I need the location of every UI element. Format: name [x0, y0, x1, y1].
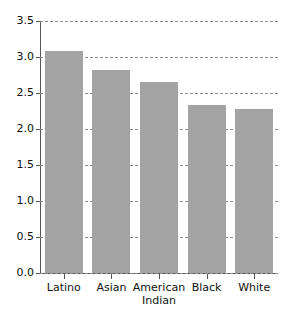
y-axis-tick: [36, 273, 40, 274]
y-axis-tick-label: 2.5: [0, 86, 34, 99]
bar: [92, 70, 130, 273]
bar-chart: 0.00.51.01.52.02.53.03.5 LatinoAsianAmer…: [0, 0, 286, 314]
y-axis-tick-label: 0.5: [0, 230, 34, 243]
y-axis-tick: [36, 129, 40, 130]
y-axis-tick-label: 0.0: [0, 266, 34, 279]
bar: [45, 51, 83, 273]
y-axis-tick-label: 2.0: [0, 122, 34, 135]
y-axis-tick: [36, 93, 40, 94]
x-axis-tick: [111, 274, 112, 279]
x-axis-tick: [64, 274, 65, 279]
bar: [188, 105, 226, 273]
y-axis-spine: [40, 21, 41, 273]
y-axis-tick-label: 1.5: [0, 158, 34, 171]
y-axis-tick-label: 3.5: [0, 14, 34, 27]
x-axis-tick: [159, 274, 160, 279]
y-axis-tick-label: 3.0: [0, 50, 34, 63]
x-axis-tick: [254, 274, 255, 279]
y-axis-tick: [36, 57, 40, 58]
bar: [235, 109, 273, 273]
y-axis-tick: [36, 165, 40, 166]
y-axis-tick: [36, 201, 40, 202]
y-axis-tick: [36, 21, 40, 22]
gridline: [40, 21, 278, 22]
y-axis-tick-label: 1.0: [0, 194, 34, 207]
x-axis-tick-label: White: [226, 281, 282, 294]
y-axis-tick: [36, 237, 40, 238]
x-axis-tick: [207, 274, 208, 279]
bar: [140, 82, 178, 273]
